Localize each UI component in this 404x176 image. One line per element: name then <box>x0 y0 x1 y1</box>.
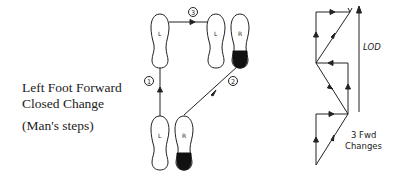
arrow-icon <box>329 112 334 117</box>
diagram-canvas: L L R L R 3 1 2 LOD 3 Fwd Changes <box>0 0 404 176</box>
foot-start-right <box>175 116 193 170</box>
floor-pattern-caption-line1: 3 Fwd <box>351 130 376 140</box>
arrow-icon <box>190 20 195 25</box>
arrow-icon <box>328 61 333 66</box>
step-3-number: 3 <box>191 9 195 17</box>
arrow-icon <box>158 87 163 92</box>
tick-mark <box>348 8 352 12</box>
foot-end-right <box>231 14 249 68</box>
floor-pattern-caption-line2: Changes <box>345 141 383 151</box>
lod-label: LOD <box>363 42 381 52</box>
foot-label: R <box>182 132 186 139</box>
foot-end-left <box>151 14 169 68</box>
arrow-icon <box>346 84 351 89</box>
arrow-icon <box>314 137 319 142</box>
arrow-icon <box>330 10 335 15</box>
step-1-number: 1 <box>147 78 151 86</box>
foot-end-left-closed <box>207 14 225 68</box>
arrow-icon <box>328 85 334 89</box>
step-2-number: 2 <box>231 78 235 86</box>
arrow-icon <box>331 135 334 141</box>
foot-start-left <box>151 116 169 170</box>
arrow-icon <box>331 33 335 39</box>
step-2-path <box>184 66 238 115</box>
arrow-icon <box>211 90 216 96</box>
lod-arrow-icon <box>357 6 362 13</box>
foot-label: R <box>238 30 242 37</box>
arrow-icon <box>314 32 319 37</box>
